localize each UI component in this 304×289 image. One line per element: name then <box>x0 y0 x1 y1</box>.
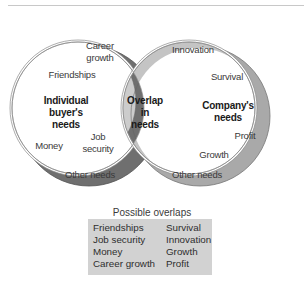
overlaps-left-column: Friendships Job security Money Career gr… <box>93 222 155 270</box>
left-item-money: Money <box>30 140 68 152</box>
left-item-friendships: Friendships <box>46 69 98 81</box>
title-line: Individual <box>38 95 94 107</box>
label-line: Friendships <box>46 69 98 81</box>
label-line: Career <box>78 40 122 52</box>
overlap-title: Overlap in needs <box>122 95 168 131</box>
overlap-item: Survival <box>166 222 211 234</box>
label-line: Other needs <box>170 169 224 181</box>
right-item-profit: Profit <box>230 130 260 142</box>
possible-overlaps-caption: Possible overlaps <box>0 207 304 218</box>
overlap-item: Innovation <box>166 234 211 246</box>
title-line: needs <box>122 119 168 131</box>
title-line: Company's <box>200 100 256 112</box>
overlap-item: Friendships <box>93 222 155 234</box>
label-line: Growth <box>196 149 232 161</box>
title-line: Overlap <box>122 95 168 107</box>
overlaps-right-column: Survival Innovation Growth Profit <box>166 222 211 270</box>
right-item-other-needs: Other needs <box>170 169 224 181</box>
title-line: needs <box>38 119 94 131</box>
overlap-item: Growth <box>166 246 211 258</box>
left-item-other-needs: Other needs <box>64 169 116 181</box>
right-item-innovation: Innovation <box>170 44 216 56</box>
overlap-item: Profit <box>166 258 211 270</box>
title-line: needs <box>200 112 256 124</box>
label-line: security <box>78 143 118 155</box>
left-circle-title: Individual buyer's needs <box>38 95 94 131</box>
right-circle-title: Company's needs <box>200 100 256 124</box>
label-line: Survival <box>207 71 247 83</box>
label-line: Profit <box>230 130 260 142</box>
left-item-career-growth: Career growth <box>78 40 122 64</box>
right-item-survival: Survival <box>207 71 247 83</box>
label-line: Job <box>78 131 118 143</box>
title-line: buyer's <box>38 107 94 119</box>
right-item-growth: Growth <box>196 149 232 161</box>
label-line: Other needs <box>64 169 116 181</box>
label-line: Innovation <box>170 44 216 56</box>
possible-overlaps-box: Friendships Job security Money Career gr… <box>88 219 212 275</box>
overlap-item: Money <box>93 246 155 258</box>
label-line: Money <box>30 140 68 152</box>
label-line: growth <box>78 52 122 64</box>
left-item-job-security: Job security <box>78 131 118 155</box>
overlap-item: Job security <box>93 234 155 246</box>
overlap-item: Career growth <box>93 258 155 270</box>
title-line: in <box>122 107 168 119</box>
